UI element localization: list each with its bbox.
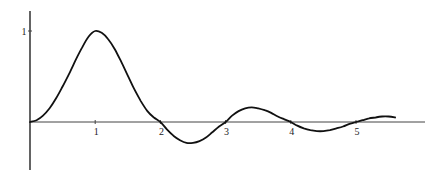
x-tick-label: 5 — [355, 126, 360, 137]
x-tick-label: 3 — [224, 126, 229, 137]
x-ticks: 12345 — [94, 120, 360, 137]
x-tick-label: 2 — [159, 126, 164, 137]
y-tick-label: 1 — [22, 26, 27, 37]
line-chart: 1 12345 — [0, 0, 448, 186]
data-curve — [30, 31, 395, 143]
x-tick-label: 4 — [289, 126, 294, 137]
x-tick-label: 1 — [94, 126, 99, 137]
